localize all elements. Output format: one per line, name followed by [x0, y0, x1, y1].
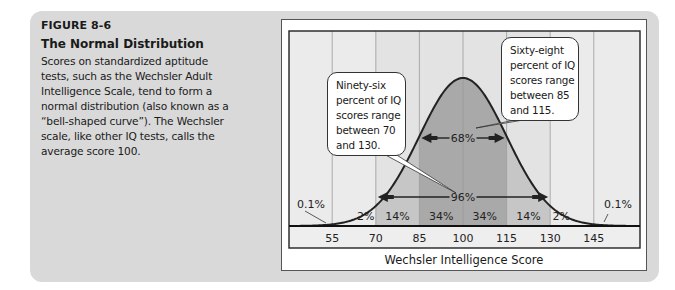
- band-label: 0.1%: [297, 198, 325, 211]
- band-label: 0.1%: [604, 198, 632, 211]
- tick-label-115: 115: [496, 232, 517, 245]
- callout-line: scores range: [510, 73, 572, 88]
- tick-label-130: 130: [540, 232, 561, 245]
- callout-line: scores range: [336, 108, 399, 123]
- callout-line: percent of IQ: [510, 58, 572, 73]
- callout-line: between 70: [336, 123, 399, 138]
- band-label: 2%: [357, 210, 374, 223]
- callout-68-percent: Sixty-eight percent of IQ scores range b…: [501, 37, 579, 121]
- callout-line: Ninety-six: [336, 78, 399, 93]
- x-axis-title: Wechsler Intelligence Score: [281, 253, 647, 267]
- range-label: 96%: [451, 191, 475, 204]
- tick-label-100: 100: [453, 232, 474, 245]
- callout-line: between 85: [510, 88, 572, 103]
- band-label: 14%: [385, 210, 409, 223]
- tick-label-85: 85: [412, 232, 426, 245]
- tick-label-145: 145: [583, 232, 604, 245]
- callout-96-percent: Ninety-six percent of IQ scores range be…: [327, 72, 406, 156]
- callout-line: and 115.: [510, 103, 572, 118]
- band-label: 34%: [429, 210, 453, 223]
- callout-line: Sixty-eight: [510, 43, 572, 58]
- band-label: 14%: [516, 210, 540, 223]
- tick-label-55: 55: [325, 232, 339, 245]
- band-label: 34%: [473, 210, 497, 223]
- callout-line: percent of IQ: [336, 93, 399, 108]
- tick-label-70: 70: [369, 232, 383, 245]
- callout-line: and 130.: [336, 138, 399, 153]
- band-label: 2%: [552, 210, 569, 223]
- range-label: 68%: [451, 132, 475, 145]
